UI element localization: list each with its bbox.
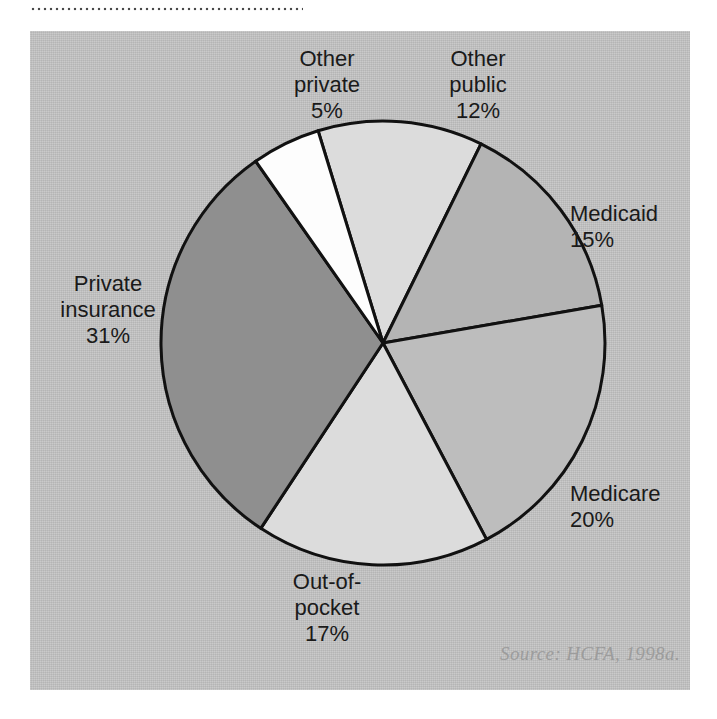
source-note: Source: HCFA, 1998a.: [500, 643, 680, 665]
pie-label-other-private-value: 5%: [252, 98, 402, 124]
pie-label-out-of-pocket: Out-of- pocket17%: [252, 569, 402, 647]
pie-label-medicaid: Medicaid15%: [570, 201, 690, 253]
pie-chart-panel: Other private5% Other public12% Medicaid…: [30, 31, 690, 690]
pie-label-private-insurance: Private insurance31%: [32, 271, 184, 349]
pie-label-other-private: Other private5%: [252, 46, 402, 124]
pie-label-medicaid-name: Medicaid: [570, 201, 658, 226]
pie-label-out-of-pocket-value: 17%: [252, 621, 402, 647]
pie-label-private-insurance-value: 31%: [32, 323, 184, 349]
dotted-divider: [31, 7, 303, 12]
pie-label-medicaid-value: 15%: [570, 227, 690, 253]
pie-slice-group: [161, 121, 605, 565]
pie-label-medicare: Medicare20%: [570, 481, 690, 533]
pie-label-other-private-name: Other private: [294, 46, 360, 97]
pie-label-medicare-value: 20%: [570, 507, 690, 533]
pie-label-other-public: Other public12%: [408, 46, 548, 124]
pie-label-other-public-value: 12%: [408, 98, 548, 124]
pie-label-out-of-pocket-name: Out-of- pocket: [293, 569, 361, 620]
pie-label-private-insurance-name: Private insurance: [60, 271, 155, 322]
pie-label-medicare-name: Medicare: [570, 481, 660, 506]
figure-page: Other private5% Other public12% Medicaid…: [0, 0, 717, 719]
pie-label-other-public-name: Other public: [449, 46, 506, 97]
